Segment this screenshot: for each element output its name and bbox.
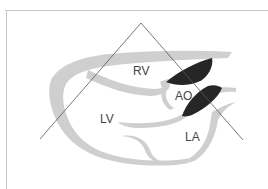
label-right-ventricle: RV	[133, 64, 149, 78]
aortic-valve-leaflets	[166, 58, 222, 116]
label-left-atrium: LA	[185, 130, 200, 144]
label-left-ventricle: LV	[100, 112, 114, 126]
heart-diagram: RV LV AO LA	[0, 0, 268, 189]
septum	[86, 70, 170, 96]
anterior-mitral-leaflet	[118, 113, 186, 128]
right-coronary-cusp	[166, 58, 212, 85]
label-aorta: AO	[175, 89, 192, 103]
